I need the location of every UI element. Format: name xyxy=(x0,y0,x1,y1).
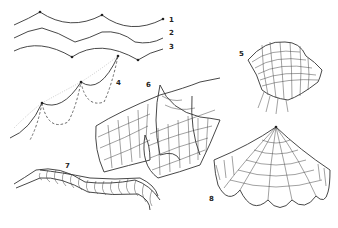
label-3: 3 xyxy=(169,44,174,51)
figure-8-tent xyxy=(214,126,330,208)
label-2: 2 xyxy=(169,30,174,37)
figure-7-wavy-strip xyxy=(14,169,160,210)
label-4: 4 xyxy=(116,80,121,87)
curve-3 xyxy=(14,46,163,62)
diagram-canvas: 1 2 3 4 5 6 7 8 xyxy=(0,0,338,228)
label-8: 8 xyxy=(209,196,214,203)
figure-5-saddle xyxy=(248,42,322,114)
curve-1 xyxy=(14,11,164,27)
label-6: 6 xyxy=(146,82,151,89)
label-1: 1 xyxy=(169,17,174,24)
label-5: 5 xyxy=(239,51,244,58)
label-7: 7 xyxy=(65,163,70,170)
figure-6-double-trough xyxy=(96,78,220,178)
curve-2 xyxy=(14,28,163,43)
figure-4-chains xyxy=(10,55,119,140)
